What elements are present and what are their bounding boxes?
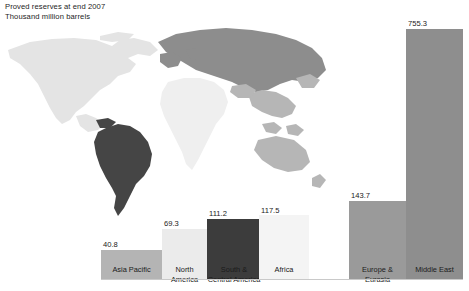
- bar-label-north-america: North America: [162, 265, 207, 284]
- bar-label-line: South &: [203, 265, 265, 275]
- bar-label-asia-pacific: Asia Pacific: [101, 265, 162, 275]
- bar-chart: 40.8 Asia Pacific 69.3 North America 111…: [0, 0, 469, 291]
- bar-label-line: North: [162, 265, 207, 275]
- bar-label-south-central-america: South & Central America: [203, 265, 265, 284]
- chart-baseline: [101, 279, 463, 280]
- bar-label-line: Middle East: [404, 265, 465, 275]
- chart-figure: Proved reserves at end 2007 Thousand mil…: [0, 0, 469, 291]
- bar-value-north-america: 69.3: [164, 219, 179, 228]
- bar-label-europe-eurasia: Europe & Eurasia: [349, 265, 406, 284]
- bar-middle-east: [406, 29, 463, 280]
- bar-value-middle-east: 755.3: [408, 19, 427, 28]
- bar-label-line: Africa: [259, 265, 309, 275]
- bar-value-europe-eurasia: 143.7: [351, 191, 370, 200]
- bar-label-africa: Africa: [259, 265, 309, 275]
- bar-value-south-central-america: 111.2: [209, 209, 227, 218]
- bar-label-line: Asia Pacific: [101, 265, 162, 275]
- bar-value-africa: 117.5: [261, 206, 279, 215]
- bar-label-middle-east: Middle East: [404, 265, 465, 275]
- bar-label-line: Europe &: [349, 265, 406, 275]
- bar-value-asia-pacific: 40.8: [103, 240, 118, 249]
